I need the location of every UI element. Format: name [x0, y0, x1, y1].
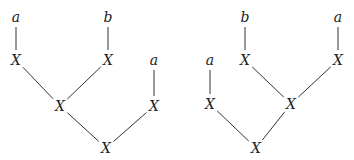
- right-tree: bXaXaXXX: [204, 9, 344, 156]
- node-label: X: [10, 52, 22, 68]
- node-label: b: [104, 9, 113, 25]
- node-label: a: [12, 9, 20, 25]
- edge: [262, 112, 285, 140]
- node-label: X: [239, 52, 251, 68]
- node-label: X: [250, 140, 262, 156]
- edge: [67, 113, 98, 142]
- edge: [114, 113, 147, 142]
- edge: [217, 111, 249, 141]
- node-label: X: [332, 52, 344, 68]
- node-label: a: [206, 52, 214, 68]
- node-label: b: [241, 9, 250, 25]
- node-label: X: [204, 96, 216, 112]
- edge: [298, 67, 330, 97]
- left-tree: aXbXaXXX: [10, 9, 160, 156]
- edge: [23, 67, 53, 99]
- node-label: a: [334, 9, 342, 25]
- node-label: X: [100, 140, 112, 156]
- node-label: X: [285, 96, 297, 112]
- node-label: X: [102, 52, 114, 68]
- node-label: X: [54, 98, 66, 114]
- node-label: a: [150, 52, 158, 68]
- edge: [252, 67, 284, 97]
- edge: [67, 67, 101, 99]
- node-label: X: [148, 98, 160, 114]
- diagram-canvas: aXbXaXXX bXaXaXXX: [0, 0, 354, 160]
